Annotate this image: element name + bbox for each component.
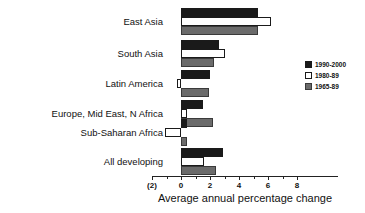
bar <box>181 100 203 109</box>
bar <box>181 58 214 67</box>
legend-swatch-icon <box>305 72 312 79</box>
category-label: Latin America <box>0 79 172 89</box>
bar <box>181 157 204 166</box>
legend-item: 1980-89 <box>305 71 365 80</box>
x-axis-tick-label: 2 <box>208 181 212 190</box>
x-axis-minor-tick <box>167 176 168 179</box>
category-label-column: East AsiaSouth AsiaLatin AmericaEurope, … <box>0 0 172 170</box>
x-axis-tick <box>297 176 298 180</box>
x-axis-minor-tick <box>283 176 284 179</box>
legend-swatch-icon <box>305 83 312 90</box>
x-axis-line <box>152 176 338 177</box>
category-label: East Asia <box>0 17 172 27</box>
bar <box>181 166 216 175</box>
legend-label: 1980-89 <box>315 72 339 79</box>
bar <box>165 128 181 137</box>
bar <box>181 148 223 157</box>
bar <box>177 79 181 88</box>
x-axis-tick <box>152 176 153 180</box>
category-label: Europe, Mid East, N Africa <box>0 109 172 119</box>
legend-item: 1990-2000 <box>305 60 365 69</box>
x-axis-tick-label: 0 <box>179 181 183 190</box>
bar <box>181 137 187 146</box>
x-axis-tick-label: 6 <box>266 181 270 190</box>
legend-label: 1965-89 <box>315 83 339 90</box>
x-axis-tick-label: 8 <box>295 181 299 190</box>
bar <box>181 26 258 35</box>
x-axis-tick <box>210 176 211 180</box>
bar <box>181 40 219 49</box>
x-axis-tick-label: (2) <box>147 181 157 190</box>
bar <box>181 119 187 128</box>
x-axis-tick <box>181 176 182 180</box>
x-axis-title: Average annual percentage change <box>152 192 338 205</box>
category-label: Sub-Saharan Africa <box>0 128 172 138</box>
bar <box>181 70 210 79</box>
x-axis-tick <box>268 176 269 180</box>
x-axis-minor-tick <box>196 176 197 179</box>
bar <box>181 88 209 97</box>
category-label: South Asia <box>0 49 172 59</box>
bar <box>181 17 271 26</box>
bar <box>181 8 258 17</box>
legend-label: 1990-2000 <box>315 61 346 68</box>
x-axis-minor-tick <box>225 176 226 179</box>
x-axis-minor-tick <box>254 176 255 179</box>
bar-chart: East AsiaSouth AsiaLatin AmericaEurope, … <box>0 0 365 213</box>
legend-item: 1965-89 <box>305 82 365 91</box>
bar <box>181 49 225 58</box>
category-label: All developing <box>0 157 172 167</box>
bar <box>181 109 187 118</box>
chart-legend: 1990-20001980-891965-89 <box>305 60 365 93</box>
legend-swatch-icon <box>305 61 312 68</box>
x-axis-tick-label: 4 <box>237 181 241 190</box>
x-axis-tick <box>239 176 240 180</box>
